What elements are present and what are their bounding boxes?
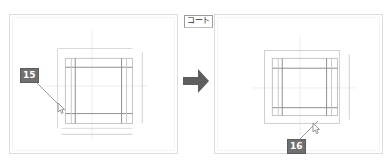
outer-frame-light: [264, 50, 339, 123]
callout-badge-15[interactable]: 15: [20, 68, 39, 83]
before-panel[interactable]: [9, 14, 178, 154]
before-drawing-canvas[interactable]: [10, 15, 177, 153]
feature-grid-lines: [272, 58, 337, 115]
secondary-grid-lines: [278, 58, 331, 115]
transition-arrow: [181, 64, 211, 98]
after-panel[interactable]: [214, 14, 383, 154]
mouse-cursor-icon-before: [57, 100, 66, 111]
mouse-cursor-icon-after: [312, 120, 321, 131]
screenshot-stage: コート 15 16: [0, 0, 391, 164]
feature-grid-lines: [65, 58, 132, 123]
extension-lines: [61, 52, 142, 134]
callout-badge-16[interactable]: 16: [287, 139, 306, 154]
after-drawing-canvas[interactable]: [215, 15, 382, 153]
coat-label-tag: コート: [184, 15, 213, 28]
right-arrow-icon: [181, 64, 211, 98]
